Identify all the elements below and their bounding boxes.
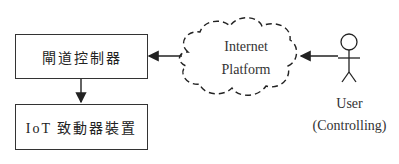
cloud-label-line2: Platform: [196, 61, 296, 79]
gateway-controller-box: 閘道控制器: [15, 34, 148, 79]
gateway-controller-label: 閘道控制器: [42, 47, 122, 67]
user-label-line1: User: [300, 95, 399, 113]
user-label-line2: (Controlling): [300, 117, 399, 135]
user-label: User (Controlling): [300, 95, 399, 135]
cloud-label: Internet Platform: [196, 38, 296, 79]
user-actor-icon: [338, 34, 360, 82]
iot-actuator-box: IoT 致動器裝置: [15, 104, 148, 150]
diagram-canvas: 閘道控制器 IoT 致動器裝置 Internet Platform User (…: [0, 0, 399, 164]
cloud-label-line1: Internet: [196, 38, 296, 56]
iot-actuator-label: IoT 致動器裝置: [26, 117, 137, 137]
